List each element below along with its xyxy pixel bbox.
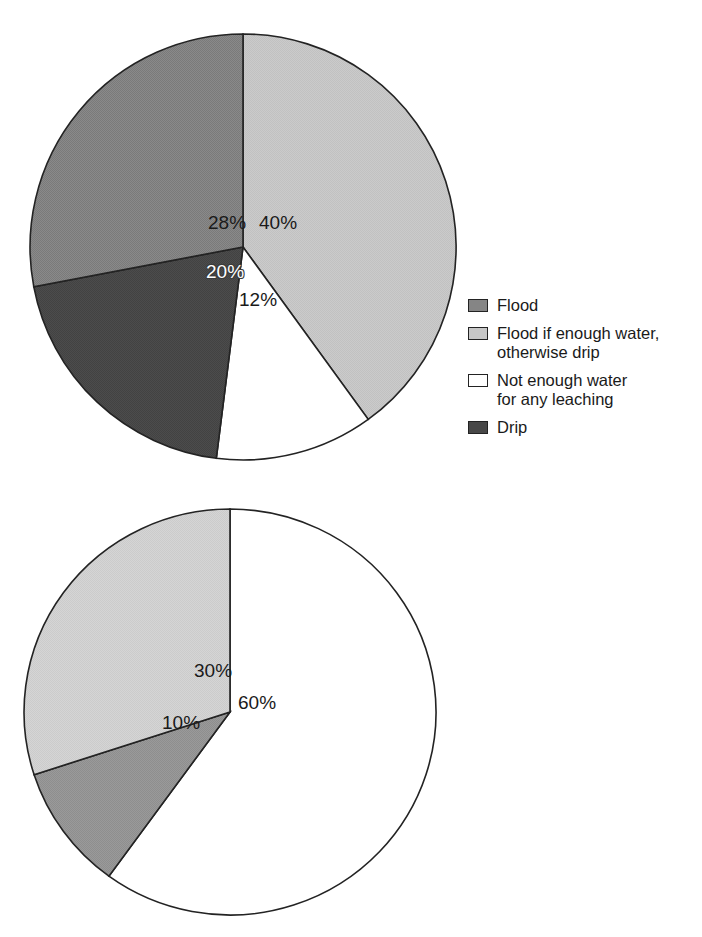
legend-label: Not enough water for any leaching — [497, 371, 627, 409]
legend-item[interactable]: Drip — [468, 418, 659, 437]
pie-1-label-drip: 20% — [206, 261, 244, 283]
legend-swatch-not-enough-icon — [468, 374, 488, 387]
pie-2-slices — [24, 509, 436, 915]
pie-2-label-start: 60% — [238, 692, 276, 714]
pie-chart-irrigation-method: 28% 40% 20% 12% Flood Flood if enough wa… — [0, 0, 702, 480]
legend-item[interactable]: Flood — [468, 296, 659, 315]
legend-label: Flood — [497, 296, 538, 315]
pie-1-label-flood-if-enough: 40% — [259, 212, 297, 234]
pie-1-label-flood: 28% — [208, 212, 246, 234]
pie-2-graphic — [0, 480, 702, 937]
legend-swatch-drip-icon — [468, 421, 488, 434]
legend-label: Drip — [497, 418, 527, 437]
legend-swatch-flood-icon — [468, 299, 488, 312]
legend-swatch-flood-if-enough-icon — [468, 327, 488, 340]
legend-label: Flood if enough water, otherwise drip — [497, 324, 659, 362]
pie-1-legend: Flood Flood if enough water, otherwise d… — [468, 296, 659, 446]
legend-item[interactable]: Flood if enough water, otherwise drip — [468, 324, 659, 362]
pie-2-label-end: 10% — [162, 712, 200, 734]
slice-flood — [30, 34, 243, 287]
legend-item[interactable]: Not enough water for any leaching — [468, 371, 659, 409]
pie-1-label-not-enough: 12% — [239, 289, 277, 311]
pie-1-slices — [30, 34, 456, 460]
pie-2-label-slight-over: 30% — [194, 660, 232, 682]
pie-chart-leaching-timing: 30% 60% 10% Start of season End of seaso… — [0, 480, 702, 937]
